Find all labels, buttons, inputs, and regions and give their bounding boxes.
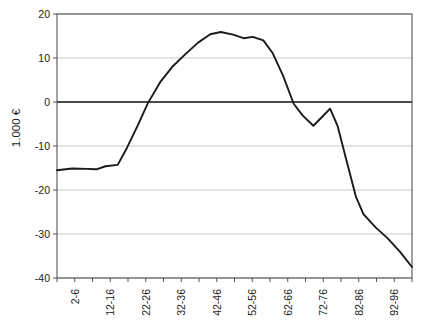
x-tick-label: 12-16 [104, 289, 116, 316]
x-tick-label: 82-86 [353, 289, 365, 316]
y-tick-label: -10 [35, 140, 50, 152]
y-tick-label: 10 [38, 52, 50, 64]
x-axis-ticks [57, 278, 412, 282]
x-tick-label: 22-26 [140, 289, 152, 316]
y-tick-label: -20 [35, 184, 50, 196]
y-tick-label: 20 [38, 8, 50, 20]
x-tick-label: 32-36 [175, 289, 187, 316]
x-tick-label: 92-96 [388, 289, 400, 316]
x-tick-label: 72-76 [317, 289, 329, 316]
y-tick-label: 0 [44, 96, 50, 108]
y-axis-title-text: 1.000 € [10, 108, 22, 147]
x-tick-label: 42-46 [211, 289, 223, 316]
x-tick-label: 52-56 [246, 289, 258, 316]
x-tick-label: 62-66 [282, 289, 294, 316]
y-axis-title: 1.000 € [10, 108, 22, 147]
chart-background [0, 0, 428, 328]
line-chart: 20100-10-20-30-40 2-612-1622-2632-3642-4… [0, 0, 428, 328]
y-tick-label: -40 [35, 272, 50, 284]
chart-container: 20100-10-20-30-40 2-612-1622-2632-3642-4… [0, 0, 428, 328]
y-tick-label: -30 [35, 228, 50, 240]
x-tick-label: 2-6 [69, 289, 81, 304]
